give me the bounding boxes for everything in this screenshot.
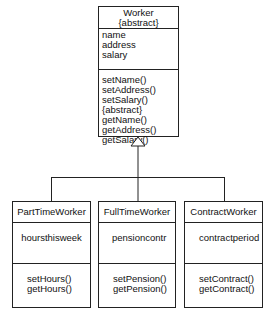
class-parttimeworker: PartTimeWorker hoursthisweek setHours() … — [12, 201, 91, 308]
class-attributes: pensioncontr — [99, 222, 175, 263]
class-attributes: contractperiod — [185, 222, 262, 263]
class-name: FullTimeWorker — [99, 207, 175, 217]
attribute: contractperiod — [199, 233, 262, 243]
class-operations: setHours() getHours() — [13, 263, 90, 307]
class-operations: setPension() getPension() — [99, 263, 175, 307]
attribute: hoursthisweek — [13, 233, 90, 243]
class-name: PartTimeWorker — [13, 207, 90, 217]
class-name-section: ContractWorker — [185, 202, 262, 222]
class-attributes: hoursthisweek — [13, 222, 90, 263]
operation: getPension() — [113, 284, 175, 294]
class-name-section: PartTimeWorker — [13, 202, 90, 222]
class-operations: setContract() getContract() — [185, 263, 262, 307]
class-name: ContractWorker — [185, 207, 262, 217]
attribute: pensioncontr — [112, 233, 175, 243]
operation: getContract() — [199, 284, 262, 294]
class-contractworker: ContractWorker contractperiod setContrac… — [184, 201, 263, 308]
class-fulltimeworker: FullTimeWorker pensioncontr setPension()… — [98, 201, 176, 308]
class-name-section: FullTimeWorker — [99, 202, 175, 222]
operation: getHours() — [27, 284, 90, 294]
